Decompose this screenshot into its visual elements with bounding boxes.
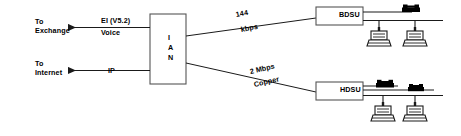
terminal-icon-hdsu-1 [371,102,395,121]
phone-icon-bdsu-1 [402,5,420,13]
terminal-icon-hdsu-2 [403,102,427,121]
terminal-icon-bdsu-2 [403,27,427,46]
network-diagram-canvas [0,0,461,136]
phone-icon-hdsu-1 [376,80,394,88]
phone-icon-hdsu-2 [408,84,424,91]
terminal-icon-bdsu-1 [367,27,391,46]
